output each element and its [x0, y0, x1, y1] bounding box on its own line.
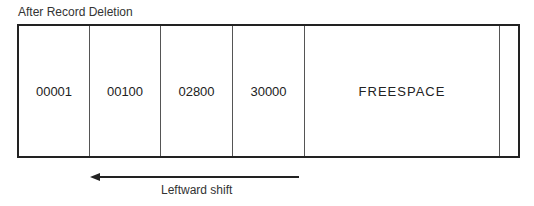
freespace-cell: FREESPACE	[305, 26, 500, 156]
record-cell-02800: 02800	[161, 26, 233, 156]
end-cell	[500, 26, 518, 156]
left-arrow-icon	[88, 171, 302, 183]
record-cell-00100: 00100	[90, 26, 161, 156]
shift-label: Leftward shift	[161, 183, 232, 197]
record-cell-30000: 30000	[233, 26, 305, 156]
diagram-title: After Record Deletion	[18, 5, 133, 19]
record-block: 00001 00100 02800 30000 FREESPACE	[17, 24, 520, 158]
record-cell-00001: 00001	[19, 26, 90, 156]
